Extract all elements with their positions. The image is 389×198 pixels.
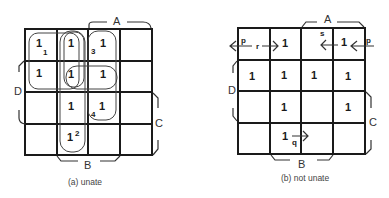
svg-text:q: q	[292, 138, 297, 147]
karnaugh-diagram: A D C B 1 1 1 1 1 1 1 1 1 1 2 3 4 (a) un…	[0, 0, 389, 198]
map-b-arrow-s: s	[320, 29, 338, 50]
svg-text:p: p	[366, 36, 371, 45]
map-a-loop-number-4: 4	[91, 110, 96, 119]
map-a-label-B: B	[84, 159, 91, 171]
map-b-arrow-p-right: p	[351, 36, 374, 51]
map-a-cell-r1c1: 1	[68, 68, 74, 80]
map-a-cell-r3c1: 1	[67, 131, 73, 143]
map-b-label-B: B	[298, 158, 305, 170]
map-a-cell-r0c0: 1	[36, 37, 42, 49]
map-a-label-A: A	[113, 15, 121, 27]
map-b-caption: (b) not unate	[281, 173, 329, 183]
map-b: A D C B 1 1 1 1 1 1 1 1 1 p r s p	[228, 13, 377, 183]
map-b-cell-r2c3: 1	[345, 101, 351, 113]
map-b-label-A: A	[324, 13, 332, 25]
map-a-loop-number-2: 2	[75, 129, 80, 138]
map-a-cell-r1c0: 1	[36, 67, 42, 79]
map-a-cell-r2c2: 1	[99, 100, 105, 112]
map-a-loop-number-3: 3	[91, 47, 96, 56]
map-b-label-C: C	[369, 116, 377, 128]
map-b-arrow-r: r	[256, 41, 278, 51]
map-a-loop-number-1: 1	[43, 48, 48, 57]
map-b-cell-r0c3: 1	[341, 36, 347, 48]
map-b-cell-r1c2: 1	[311, 69, 317, 81]
map-b-cell-r0c1: 1	[282, 37, 288, 49]
map-b-cell-r3c1: 1	[282, 130, 288, 142]
map-a-cell-r1c2: 1	[100, 68, 106, 80]
map-b-arrow-p-left: p	[230, 36, 252, 51]
map-b-cell-r2c1: 1	[281, 101, 287, 113]
map-a-cell-r2c1: 1	[68, 100, 74, 112]
map-a-cell-r0c2: 1	[100, 37, 106, 49]
map-a-label-D: D	[14, 85, 22, 97]
map-b-cell-r1c3: 1	[345, 70, 351, 82]
map-a-cell-r0c1: 1	[68, 37, 74, 49]
map-a-caption: (a) unate	[68, 177, 102, 187]
map-b-bracket-A	[302, 22, 364, 27]
svg-text:s: s	[320, 29, 325, 38]
map-b-label-D: D	[228, 84, 236, 96]
map-b-cell-r1c0: 1	[249, 70, 255, 82]
svg-text:p: p	[241, 36, 246, 45]
svg-text:r: r	[256, 42, 259, 51]
map-a: A D C B 1 1 1 1 1 1 1 1 1 1 2 3 4 (a) un…	[14, 15, 163, 187]
map-b-cell-r1c1: 1	[281, 69, 287, 81]
map-a-label-C: C	[155, 117, 163, 129]
